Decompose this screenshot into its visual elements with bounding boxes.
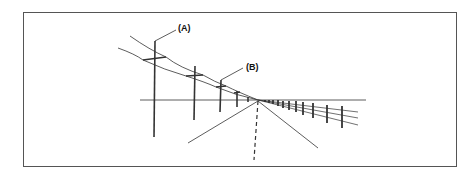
label-a: (A) bbox=[178, 23, 191, 33]
power-wires bbox=[118, 36, 258, 100]
telephone-poles bbox=[154, 41, 248, 137]
leader-line-b bbox=[221, 68, 243, 80]
road-right-edge bbox=[258, 101, 318, 148]
leader-line-a bbox=[155, 30, 176, 41]
fence bbox=[258, 100, 358, 128]
crossarms bbox=[143, 57, 240, 93]
road-center-line bbox=[254, 101, 258, 160]
perspective-diagram: (A) (B) bbox=[0, 0, 476, 175]
road-left-edge bbox=[188, 101, 258, 143]
label-b: (B) bbox=[246, 62, 259, 72]
